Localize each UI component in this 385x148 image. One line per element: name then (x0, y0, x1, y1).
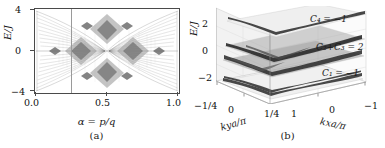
figure-root: E/J 4 0 −4 (0, 0, 385, 148)
panel-b-ytick-mid: 0 (202, 45, 208, 56)
chern-band-4-label: C₄ = −1 (310, 14, 347, 24)
panel-a-xtickmark-1 (106, 92, 107, 96)
panel-a-caption: (a) (0, 130, 193, 141)
panel-a-xtick-0: 0.0 (24, 97, 39, 108)
panel-b-ytick-top: 2 (202, 18, 208, 29)
panel-a-xtickmark-0 (35, 92, 36, 96)
panel-b-ky-tick-zero: 0 (228, 104, 234, 115)
panel-a-xtick-1: 0.5 (95, 97, 110, 108)
panel-b-kx-tick-pos: 1 (291, 108, 297, 119)
band-structure-3d-plot (216, 6, 376, 104)
panel-a-ylabel: E/J (2, 25, 13, 40)
panel-b-ylabel: E/J (188, 21, 199, 36)
panel-a-ytickmark-top (30, 9, 34, 10)
panel-a-ytickmark-mid (30, 50, 34, 51)
panel-b-ky-tick-neg: −1/4 (194, 100, 217, 111)
panel-b-kx-tick-zero: 0 (329, 104, 335, 115)
chern-band-23-label: C₂+C₃ = 2 (316, 42, 364, 52)
panel-a: E/J 4 0 −4 (0, 0, 193, 148)
panel-a-plot-area (34, 8, 180, 94)
panel-a-ytick-mid: 0 (15, 45, 21, 56)
panel-b-ky-tick-pos: 1/4 (264, 108, 279, 119)
panel-b-ytick-bot: −2 (198, 72, 212, 83)
panel-b-plot-area (216, 6, 376, 104)
panel-a-ytickmark-bot (30, 90, 34, 91)
panel-a-ytick-top: 4 (15, 4, 21, 15)
panel-a-xtickmark-2 (177, 92, 178, 96)
alpha-quarter-marker-line (71, 9, 72, 93)
panel-b-caption: (b) (190, 130, 385, 141)
panel-a-ytick-bot: −4 (11, 86, 25, 97)
chern-band-1-label: C₁ = −1 (322, 68, 359, 78)
panel-a-xlabel: α = p/q (0, 116, 193, 127)
panel-b: E/J 2 0 −2 (190, 0, 385, 148)
panel-b-kx-tick-neg: −1 (364, 100, 378, 111)
panel-a-xtick-2: 1.0 (166, 97, 181, 108)
hofstadter-butterfly-plot (35, 9, 179, 93)
